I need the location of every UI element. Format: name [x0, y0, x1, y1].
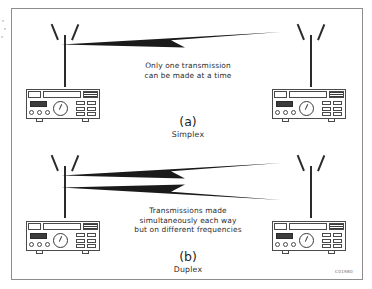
panel-letter-a: (a) [12, 115, 364, 129]
top-strip-small-panel [28, 91, 41, 98]
radio-knob [291, 242, 296, 247]
caption-line: can be made at a time [12, 71, 364, 81]
panel-name-duplex: Duplex [12, 265, 364, 275]
antenna-arm-left [297, 24, 305, 40]
radio-tuning-dial [53, 101, 68, 116]
radio-button-grid [322, 233, 342, 248]
transmission-arrow [61, 31, 281, 51]
radio-display [30, 233, 47, 239]
radio-top-strip [28, 223, 98, 230]
radio-top-strip [274, 91, 344, 98]
radio-button [322, 244, 331, 248]
caption-line: Only one transmission [12, 61, 364, 71]
top-strip-small-panel [274, 91, 287, 98]
figure-frame: Only one transmission can be made at a t… [11, 8, 363, 280]
antenna-arm-right [317, 24, 325, 40]
radio-knob [29, 242, 34, 247]
top-strip-vent [329, 91, 344, 98]
antenna-arm-left [297, 155, 305, 171]
top-strip-wide-panel [43, 91, 81, 98]
radio-tuning-dial [299, 233, 314, 248]
radio-button [333, 107, 342, 111]
caption-line: Transmissions made [12, 206, 364, 216]
radio-button [87, 107, 96, 111]
radio-button [87, 244, 96, 248]
top-strip-small-panel [28, 223, 41, 230]
panel-caption-simplex: Only one transmission can be made at a t… [12, 61, 364, 80]
radio-communication-figure: Only one transmission can be made at a t… [0, 0, 372, 289]
radio-knob [283, 242, 288, 247]
top-strip-wide-panel [43, 223, 81, 230]
radio-button [76, 239, 85, 243]
radio-button-grid [322, 101, 342, 116]
radio-button [76, 101, 85, 105]
radio-button-grid [76, 233, 96, 248]
antenna-arm-left [51, 24, 59, 40]
radio-transceiver-right [272, 221, 346, 251]
radio-button [333, 239, 342, 243]
radio-top-strip [274, 223, 344, 230]
radio-button [87, 239, 96, 243]
top-strip-vent [83, 91, 98, 98]
radio-button [322, 101, 331, 105]
radio-knob [37, 242, 42, 247]
antenna-arm-right [317, 155, 325, 171]
radio-display [276, 101, 293, 107]
radio-button [322, 107, 331, 111]
radio-knob-row [275, 242, 296, 248]
radio-display [30, 101, 47, 107]
scan-speckle [4, 28, 6, 30]
radio-tuning-dial [299, 101, 314, 116]
radio-button [322, 239, 331, 243]
panel-letter-b: (b) [12, 250, 364, 264]
radio-button [76, 244, 85, 248]
radio-knob [45, 242, 50, 247]
figure-code: C01980 [335, 269, 353, 274]
radio-button [333, 101, 342, 105]
radio-transceiver-left [26, 221, 100, 251]
top-strip-wide-panel [289, 91, 327, 98]
scan-speckle [2, 20, 4, 22]
antenna-arm-left [51, 155, 59, 171]
radio-button [87, 233, 96, 237]
radio-tuning-dial [53, 233, 68, 248]
radio-button [76, 107, 85, 111]
radio-button-grid [76, 101, 96, 116]
radio-button [333, 233, 342, 237]
radio-display [276, 233, 293, 239]
panel-duplex: Transmissions made simultaneously each w… [12, 145, 364, 281]
radio-button [87, 101, 96, 105]
transmission-arrow-upper [61, 162, 281, 182]
top-strip-vent [329, 223, 344, 230]
radio-button [76, 233, 85, 237]
radio-top-strip [28, 91, 98, 98]
top-strip-small-panel [274, 223, 287, 230]
scan-speckle [1, 36, 3, 38]
radio-knob-row [29, 242, 50, 248]
panel-name-simplex: Simplex [12, 130, 364, 140]
radio-button [333, 244, 342, 248]
top-strip-vent [83, 223, 98, 230]
radio-button [322, 233, 331, 237]
panel-simplex: Only one transmission can be made at a t… [12, 9, 364, 145]
radio-knob [275, 242, 280, 247]
top-strip-wide-panel [289, 223, 327, 230]
transmission-arrow-lower [61, 181, 281, 201]
